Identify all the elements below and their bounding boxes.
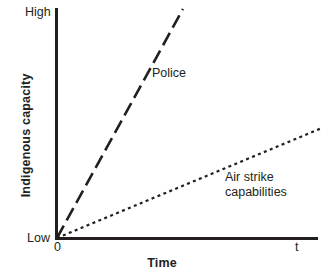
x-axis-max-tick-label: t: [295, 240, 298, 255]
series-label-air-strike-line2: capabilities: [225, 185, 287, 200]
series-label-air-strike-capabilities: Air strikecapabilities: [225, 170, 287, 200]
chart-figure: High Low 0 t Time Indigenous capacity Po…: [0, 0, 324, 278]
y-axis-low-tick-label: Low: [27, 231, 50, 246]
y-axis-title: Indigenous capacity: [19, 55, 34, 215]
series-label-police: Police: [152, 66, 186, 81]
y-axis-high-tick-label: High: [25, 5, 51, 20]
series-label-air-strike-line1: Air strike: [225, 170, 274, 184]
x-axis-origin-tick-label: 0: [54, 240, 61, 255]
series-line-police: [57, 9, 183, 238]
x-axis-title: Time: [0, 256, 324, 271]
